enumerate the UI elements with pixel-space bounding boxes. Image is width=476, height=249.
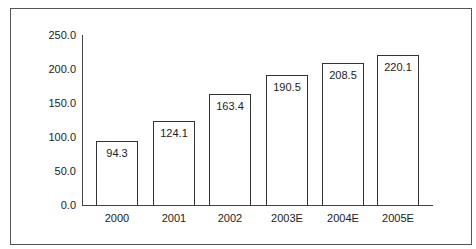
- x-axis: [82, 205, 433, 206]
- bar-2001: 124.1: [153, 121, 195, 205]
- y-tick-label: 250.0: [22, 29, 76, 41]
- bar-value-label: 208.5: [323, 69, 363, 81]
- y-tick-label: 100.0: [22, 131, 76, 143]
- x-tick-label: 2001: [144, 212, 204, 224]
- y-tick-label: 200.0: [22, 63, 76, 75]
- x-tick-label: 2000: [87, 212, 147, 224]
- bar-2003e: 190.5: [266, 75, 308, 205]
- bar-value-label: 163.4: [210, 100, 250, 112]
- x-tick-label: 2004E: [313, 212, 373, 224]
- x-tick-label: 2002: [200, 212, 260, 224]
- y-tick-label: 50.0: [22, 165, 76, 177]
- bar-value-label: 220.1: [378, 61, 418, 73]
- bar-value-label: 94.3: [97, 147, 137, 159]
- bar-value-label: 190.5: [267, 81, 307, 93]
- bar-2004e: 208.5: [322, 63, 364, 205]
- bar-2002: 163.4: [209, 94, 251, 205]
- y-axis: [82, 35, 83, 206]
- bar-2000: 94.3: [96, 141, 138, 205]
- y-tick-label: 0.0: [22, 199, 76, 211]
- bar-value-label: 124.1: [154, 127, 194, 139]
- x-tick-label: 2003E: [257, 212, 317, 224]
- bar-2005e: 220.1: [377, 55, 419, 205]
- y-tick-label: 150.0: [22, 97, 76, 109]
- x-tick-label: 2005E: [368, 212, 428, 224]
